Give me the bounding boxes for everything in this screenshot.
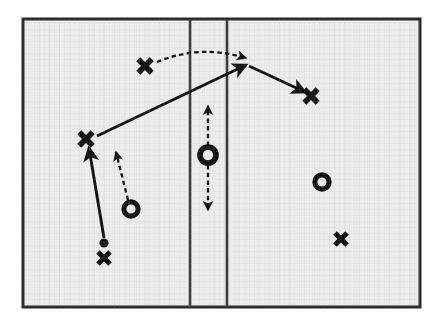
court-container [0, 0, 446, 329]
ball-icon [99, 238, 108, 247]
court-surface [23, 19, 420, 307]
play-diagram-svg [0, 0, 446, 329]
diagram-canvas [0, 0, 446, 329]
ball-marker-group [99, 238, 108, 247]
court-rect [23, 19, 420, 307]
